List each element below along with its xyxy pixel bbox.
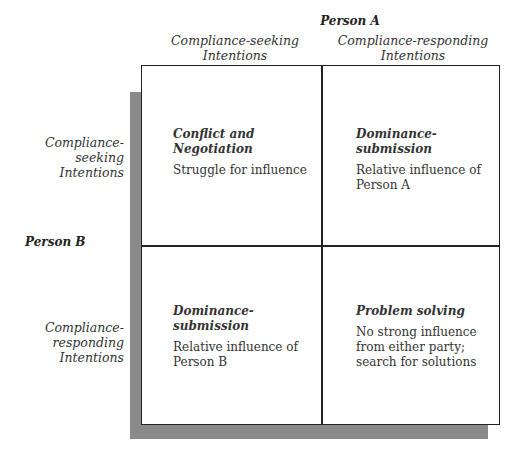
quadrant-title: Conflict and Negotiation: [173, 127, 323, 157]
quadrant-description: from either party;: [356, 340, 506, 355]
column-header-line: Compliance-responding: [328, 33, 498, 48]
quadrant-title: Problem solving: [356, 304, 506, 319]
quadrant-description: Person A: [356, 178, 506, 193]
quadrant-title: Dominance-submission: [173, 304, 323, 334]
quadrant-description: Relative influence of: [356, 163, 506, 178]
row-header-compliance-seeking: Compliance- seeking Intentions: [0, 135, 124, 180]
quadrant-title: Dominance-submission: [356, 127, 506, 157]
quadrant-description: Relative influence of: [173, 340, 323, 355]
quadrant-description: search for solutions: [356, 355, 506, 370]
row-header-line: Intentions: [0, 165, 124, 180]
quadrant-dominance-submission-a: Dominance-submission Relative influence …: [356, 127, 506, 193]
row-header-line: Intentions: [0, 350, 124, 365]
row-header-compliance-responding: Compliance- responding Intentions: [0, 320, 124, 365]
quadrant-description: No strong influence: [356, 325, 506, 340]
person-a-label: Person A: [300, 14, 400, 28]
column-header-line: Intentions: [150, 48, 320, 63]
column-header-line: Compliance-seeking: [150, 33, 320, 48]
person-b-label: Person B: [25, 235, 85, 249]
quadrant-conflict-negotiation: Conflict and Negotiation Struggle for in…: [173, 127, 323, 178]
column-header-compliance-seeking: Compliance-seeking Intentions: [150, 33, 320, 63]
row-header-line: responding: [0, 335, 124, 350]
quadrant-problem-solving: Problem solving No strong influence from…: [356, 304, 506, 370]
quadrant-description: Person B: [173, 355, 323, 370]
column-header-compliance-responding: Compliance-responding Intentions: [328, 33, 498, 63]
quadrant-dominance-submission-b: Dominance-submission Relative influence …: [173, 304, 323, 370]
row-header-line: seeking: [0, 150, 124, 165]
row-header-line: Compliance-: [0, 135, 124, 150]
column-header-line: Intentions: [328, 48, 498, 63]
horizontal-divider: [141, 245, 500, 247]
quadrant-description: Struggle for influence: [173, 163, 323, 178]
row-header-line: Compliance-: [0, 320, 124, 335]
